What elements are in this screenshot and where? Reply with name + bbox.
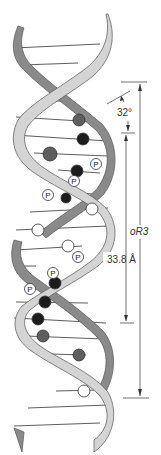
phosphate-6: P	[25, 284, 36, 295]
phosphate-3: P	[43, 190, 54, 201]
base-white	[78, 385, 90, 397]
rise-label: 33.8 Å	[107, 253, 136, 265]
base-white	[32, 224, 44, 236]
base-white	[62, 240, 74, 252]
svg-text:P: P	[45, 191, 50, 200]
svg-text:P: P	[71, 177, 76, 186]
base-white	[86, 203, 98, 215]
base-black	[49, 277, 61, 289]
phosphate-5: P	[48, 268, 59, 279]
angle-label: 32°	[117, 107, 132, 118]
base-black	[61, 193, 71, 203]
arrow-up-icon	[124, 135, 128, 141]
phosphate-2: P	[69, 176, 80, 187]
svg-text:P: P	[75, 253, 80, 262]
phosphate-4: P	[73, 252, 84, 263]
base-dark-gray	[37, 330, 49, 342]
base-black	[32, 313, 44, 325]
pitch-label: oR3	[130, 226, 149, 237]
svg-text:P: P	[93, 160, 98, 169]
base-dark-gray	[73, 349, 85, 361]
base-black	[39, 296, 51, 308]
base-black	[71, 165, 83, 177]
arrow-down-icon	[138, 389, 142, 396]
base-dark-gray	[73, 114, 85, 126]
dna-double-helix-diagram: P P P P P P	[0, 0, 161, 455]
phosphate-1: P	[91, 159, 102, 170]
svg-text:P: P	[27, 285, 32, 294]
arrow-down-icon	[126, 125, 130, 131]
svg-text:P: P	[50, 269, 55, 278]
angle-ref-line	[107, 91, 130, 104]
arrow-up-icon	[138, 84, 142, 91]
arrow-down-icon	[124, 315, 128, 321]
base-dark-gray	[43, 147, 57, 161]
base-black	[77, 133, 89, 145]
front-strand	[13, 14, 115, 452]
